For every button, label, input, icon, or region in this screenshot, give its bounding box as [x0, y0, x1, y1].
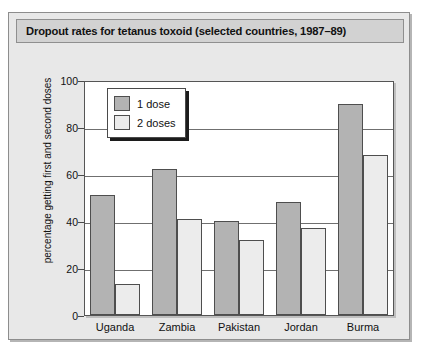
- y-tick-mark: [78, 316, 84, 317]
- y-tick-label: 60: [52, 169, 78, 181]
- x-tick-label-uganda: Uganda: [96, 321, 135, 333]
- x-tick-label-jordan: Jordan: [284, 321, 318, 333]
- figure-frame: Dropout rates for tetanus toxoid (select…: [8, 12, 410, 340]
- legend-item-2-doses: 2 doses: [114, 113, 176, 132]
- chart-title-bar: Dropout rates for tetanus toxoid (select…: [16, 19, 404, 43]
- x-tick-label-pakistan: Pakistan: [218, 321, 260, 333]
- bar-zambia-dose2: [177, 219, 202, 315]
- chart-legend: 1 dose 2 doses: [107, 88, 186, 138]
- bar-pakistan-dose1: [214, 221, 239, 315]
- plot-area: 1 dose 2 doses: [84, 81, 394, 316]
- legend-swatch-2-doses: [114, 115, 130, 130]
- bar-pakistan-dose2: [239, 240, 264, 315]
- legend-label-2-doses: 2 doses: [137, 117, 176, 129]
- bar-burma-dose2: [363, 155, 388, 315]
- x-tick-label-burma: Burma: [347, 321, 379, 333]
- bar-uganda-dose2: [115, 284, 140, 315]
- legend-label-1-dose: 1 dose: [137, 98, 170, 110]
- bar-uganda-dose1: [90, 195, 115, 315]
- y-axis-ticks: 020406080100: [48, 47, 78, 333]
- y-tick-label: 100: [52, 75, 78, 87]
- x-tick-label-zambia: Zambia: [159, 321, 196, 333]
- y-tick-label: 0: [52, 310, 78, 322]
- bar-jordan-dose2: [301, 228, 326, 315]
- y-tick-label: 20: [52, 263, 78, 275]
- legend-item-1-dose: 1 dose: [114, 94, 176, 113]
- x-axis-labels: UgandaZambiaPakistanJordanBurma: [84, 321, 394, 341]
- plot-region: percentage getting first and second dose…: [16, 47, 404, 333]
- bar-zambia-dose1: [152, 169, 177, 315]
- y-tick-label: 40: [52, 216, 78, 228]
- bar-jordan-dose1: [276, 202, 301, 315]
- y-tick-label: 80: [52, 122, 78, 134]
- page-title: Dropout rates for tetanus toxoid (select…: [26, 25, 346, 37]
- legend-swatch-1-dose: [114, 96, 130, 111]
- bar-burma-dose1: [338, 104, 363, 316]
